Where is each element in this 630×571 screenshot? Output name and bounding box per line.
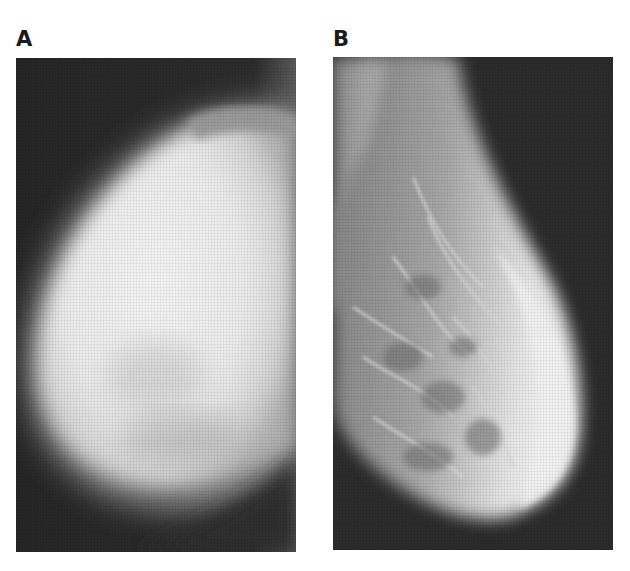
fat-lobule bbox=[449, 337, 477, 357]
fat-lobule bbox=[405, 275, 441, 299]
mammogram-image-a bbox=[16, 58, 296, 552]
mammogram-panel-b bbox=[333, 57, 613, 550]
mammogram-image-b bbox=[333, 57, 613, 550]
density-variation bbox=[121, 413, 241, 463]
panel-label-a: A bbox=[16, 29, 32, 50]
fat-lobule bbox=[465, 419, 501, 455]
panel-label-b: B bbox=[333, 29, 349, 50]
fat-lobule bbox=[403, 443, 453, 471]
mammogram-panel-a bbox=[16, 58, 296, 552]
density-variation bbox=[106, 343, 206, 413]
fat-lobule bbox=[383, 343, 423, 371]
fat-lobule bbox=[421, 381, 465, 413]
